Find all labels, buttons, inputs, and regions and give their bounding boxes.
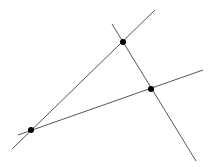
point-A — [28, 127, 34, 133]
point-B — [120, 39, 126, 45]
line-BC — [112, 24, 196, 161]
lines-layer — [12, 10, 203, 161]
point-C — [148, 86, 154, 92]
geometry-diagram — [0, 0, 212, 167]
line-AC — [18, 70, 203, 135]
line-AB — [12, 10, 155, 149]
points-layer — [28, 39, 154, 133]
